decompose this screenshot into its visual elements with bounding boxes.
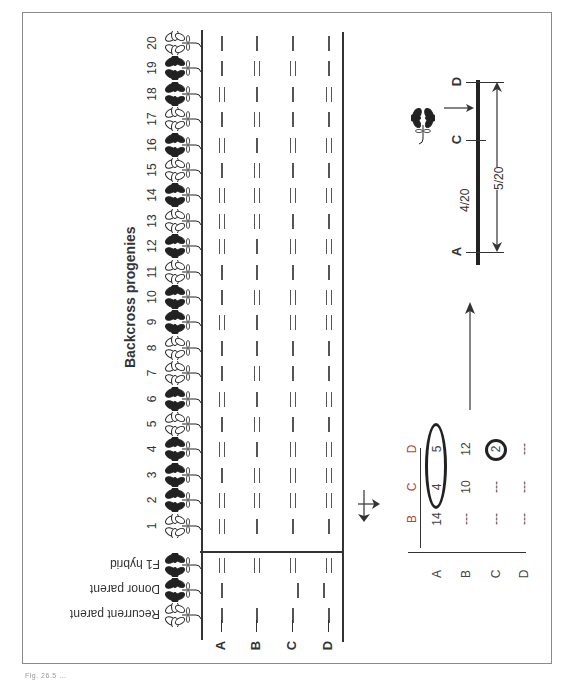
marker-band-D — [331, 188, 333, 203]
marker-band-B — [254, 214, 256, 229]
marker-band-B — [256, 87, 258, 102]
table-cell: --- — [489, 509, 503, 529]
marker-band-D — [326, 315, 328, 330]
marker-tick — [256, 620, 257, 632]
marker-band-D — [328, 36, 330, 51]
table-cell: --- — [517, 509, 531, 529]
progeny-number: 10 — [145, 288, 159, 306]
trait-flower-icon — [395, 105, 435, 127]
marker-band-C — [292, 214, 294, 229]
marker-band-A — [221, 468, 223, 483]
flower-white-icon — [162, 31, 184, 71]
marker-band-A — [224, 214, 226, 229]
marker-band-C — [292, 87, 294, 102]
progeny-number: 6 — [145, 390, 159, 408]
marker-band-B — [254, 188, 256, 203]
flower-white-icon — [162, 603, 184, 643]
table-header-divider — [420, 448, 421, 548]
marker-band-D — [328, 341, 330, 356]
progeny-number: 4 — [145, 440, 159, 458]
marker-band-C — [295, 239, 297, 254]
marker-band-A — [224, 493, 226, 508]
marker-band-A — [219, 315, 221, 330]
progeny-number: 13 — [145, 212, 159, 230]
marker-band-A — [224, 442, 226, 457]
marker-band-A — [224, 392, 226, 407]
marker-band-B — [259, 558, 261, 573]
locus-label-A: A — [449, 247, 464, 256]
marker-band-A — [221, 417, 223, 432]
marker-band-A — [219, 493, 221, 508]
marker-band-D — [328, 265, 330, 280]
marker-band-C — [290, 188, 292, 203]
marker-band-A — [219, 392, 221, 407]
marker-band-A — [221, 163, 223, 178]
marker-band-C — [290, 493, 292, 508]
progeny-number: 1 — [145, 517, 159, 535]
marker-band-D — [326, 290, 328, 305]
marker-band-B — [259, 214, 261, 229]
marker-band-A — [221, 112, 223, 127]
marker-band-D — [326, 558, 328, 573]
progeny-number: 9 — [145, 313, 159, 331]
marker-band-C — [295, 290, 297, 305]
marker-band-A — [224, 558, 226, 573]
marker-band-B — [256, 239, 258, 254]
marker-band-D — [331, 138, 333, 153]
marker-band-D — [328, 163, 330, 178]
marker-band-A — [219, 239, 221, 254]
marker-band-A — [221, 366, 223, 381]
marker-band-B — [256, 519, 258, 534]
marker-band-D — [328, 417, 330, 432]
marker-band-A — [221, 341, 223, 356]
marker-band-D — [331, 239, 333, 254]
progeny-number: 17 — [145, 110, 159, 128]
marker-band-B — [254, 163, 256, 178]
progeny-number: 7 — [145, 364, 159, 382]
marker-band-D — [331, 87, 333, 102]
marker-band-C — [290, 61, 292, 76]
progeny-number: 12 — [145, 237, 159, 255]
progeny-number: 14 — [145, 186, 159, 204]
marker-band-B — [259, 188, 261, 203]
marker-band-B — [254, 558, 256, 573]
marker-band-A — [221, 61, 223, 76]
table-row-header-B: B — [459, 564, 473, 584]
marker-band-B — [256, 341, 258, 356]
marker-band-B — [259, 163, 261, 178]
marker-band-C — [292, 163, 294, 178]
progeny-number: 8 — [145, 339, 159, 357]
marker-tick — [221, 620, 222, 632]
marker-band-C — [295, 138, 297, 153]
marker-label-C: C — [284, 641, 299, 650]
section-title: Backcross progenies — [122, 226, 138, 368]
marker-label-A: A — [213, 641, 228, 650]
table-col-header-B: B — [405, 509, 419, 529]
distance-label-A-D: 5/20 — [490, 167, 508, 190]
marker-band-A — [221, 583, 223, 598]
marker-band-C — [290, 138, 292, 153]
marker-band-C — [292, 265, 294, 280]
marker-band-A — [224, 138, 226, 153]
marker-band-B — [256, 265, 258, 280]
marker-band-A — [224, 239, 226, 254]
parent-label: F1 hybrid — [110, 557, 160, 571]
marker-band-A — [219, 519, 221, 534]
marker-band-B — [254, 112, 256, 127]
parent-separator — [200, 551, 343, 553]
progeny-number: 16 — [145, 136, 159, 154]
marker-band-C — [292, 519, 294, 534]
marker-band-A — [219, 214, 221, 229]
table-row-header-D: D — [517, 564, 531, 584]
marker-band-A — [224, 315, 226, 330]
marker-band-B — [259, 493, 261, 508]
marker-tick — [292, 620, 293, 632]
marker-band-B — [254, 468, 256, 483]
marker-band-C — [292, 36, 294, 51]
marker-band-C — [290, 558, 292, 573]
marker-band-B — [256, 138, 258, 153]
marker-band-C — [290, 442, 292, 457]
marker-band-C — [295, 442, 297, 457]
marker-band-C — [295, 315, 297, 330]
marker-band-D — [326, 138, 328, 153]
